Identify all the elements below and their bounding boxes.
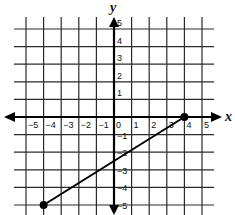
endpoint-dot xyxy=(180,113,188,121)
coordinate-plane: −5−4−3−2−101234512345−1−2−3−4−5 x y xyxy=(0,0,235,215)
x-tick-label: 1 xyxy=(134,120,139,130)
x-tick-label: −1 xyxy=(98,120,108,130)
x-tick-label: −3 xyxy=(63,120,73,130)
y-tick-label: −1 xyxy=(117,131,127,141)
x-tick-label: −5 xyxy=(28,120,38,130)
y-tick-label: −5 xyxy=(117,201,127,211)
x-tick-label: −4 xyxy=(46,120,56,130)
y-tick-label: −4 xyxy=(117,183,127,193)
x-tick-label: −2 xyxy=(81,120,91,130)
x-tick-label: 0 xyxy=(116,120,121,130)
x-tick-label: 4 xyxy=(186,120,191,130)
endpoint-dot xyxy=(40,201,48,209)
y-tick-label: 4 xyxy=(117,36,122,46)
x-tick-label: 5 xyxy=(204,120,209,130)
x-tick-label: 2 xyxy=(151,120,156,130)
y-tick-label: 2 xyxy=(117,71,122,81)
x-axis-right-arrow-icon xyxy=(211,112,222,122)
y-tick-label: 5 xyxy=(117,18,122,28)
x-axis-label: x xyxy=(224,109,232,124)
y-tick-label: −3 xyxy=(117,166,127,176)
x-axis-left-arrow-icon xyxy=(4,112,15,122)
y-tick-label: 3 xyxy=(117,53,122,63)
y-tick-label: 1 xyxy=(117,88,122,98)
y-axis-label: y xyxy=(108,0,117,15)
